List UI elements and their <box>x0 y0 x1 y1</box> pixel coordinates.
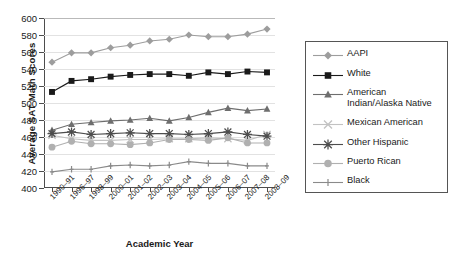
data-point-triangle <box>264 105 271 111</box>
data-point-asterisk <box>67 127 76 136</box>
legend-marker-square-icon <box>312 68 344 81</box>
data-point-asterisk <box>145 129 154 138</box>
y-tick-label: 420 <box>21 166 37 177</box>
data-point-asterisk <box>126 128 135 137</box>
data-point-circle <box>68 138 75 145</box>
legend-item: AAPI <box>312 48 368 61</box>
y-tick-label: 580 <box>21 30 37 41</box>
data-point-square <box>264 69 270 75</box>
legend-marker-triangle-icon <box>312 87 344 100</box>
data-point-square <box>88 76 94 82</box>
data-point-plus <box>167 162 171 168</box>
y-tick-label: 520 <box>21 81 37 92</box>
data-point-plus <box>70 166 74 172</box>
legend-label: White <box>347 68 371 79</box>
data-point-asterisk <box>323 140 333 150</box>
y-tick-label: 540 <box>21 64 37 75</box>
data-point-plus <box>187 158 191 164</box>
legend-marker-plus-icon <box>312 175 344 188</box>
data-point-square <box>147 71 153 77</box>
chart-legend: AAPIWhiteAmerican Indian/Alaska NativeMe… <box>305 41 448 193</box>
data-point-plus <box>226 160 230 166</box>
legend-label: AAPI <box>347 48 368 59</box>
data-point-circle <box>49 144 56 151</box>
y-tick-label: 440 <box>21 149 37 160</box>
series-lines <box>44 18 275 188</box>
data-point-diamond <box>224 33 231 40</box>
series-line <box>52 72 267 92</box>
data-point-circle <box>224 134 231 141</box>
data-point-circle <box>146 140 153 147</box>
data-point-circle <box>205 137 212 144</box>
y-tick-label: 460 <box>21 132 37 143</box>
data-point-asterisk <box>243 130 252 139</box>
data-point-plus <box>148 163 152 169</box>
data-point-square <box>166 71 172 77</box>
data-point-asterisk <box>106 129 115 138</box>
chart-figure: Average SAT Math Scores 6005805605405205… <box>0 0 453 267</box>
data-point-plus <box>265 163 269 169</box>
legend-label: Black <box>347 175 370 186</box>
y-tick-label: 560 <box>21 47 37 58</box>
y-tick-label: 500 <box>21 98 37 109</box>
data-point-asterisk <box>87 130 96 139</box>
data-point-asterisk <box>204 129 213 138</box>
data-point-diamond <box>146 37 153 44</box>
data-point-triangle <box>224 105 231 111</box>
data-point-square <box>127 72 133 78</box>
data-point-diamond <box>166 36 173 43</box>
data-point-circle <box>127 141 134 148</box>
data-point-circle <box>107 140 114 147</box>
data-point-asterisk <box>263 132 272 141</box>
data-point-plus <box>245 163 249 169</box>
data-point-plus <box>109 163 113 169</box>
data-point-circle <box>88 140 95 147</box>
legend-label: Mexican American <box>347 117 423 128</box>
data-point-diamond <box>244 31 251 38</box>
data-point-square <box>49 89 55 95</box>
data-point-diamond <box>263 25 270 32</box>
data-point-square <box>225 71 231 77</box>
legend-item: Black <box>312 175 370 188</box>
data-point-diamond <box>127 42 134 49</box>
y-tick-label: 400 <box>21 183 37 194</box>
plot-area: 600580560540520500480460440420400 1990–9… <box>44 18 275 188</box>
data-point-plus <box>326 179 330 186</box>
data-point-plus <box>206 160 210 166</box>
series-line <box>52 29 267 62</box>
data-point-square <box>108 74 114 80</box>
data-point-circle <box>244 140 251 147</box>
legend-item: American Indian/Alaska Native <box>312 87 432 109</box>
data-point-square <box>205 69 211 75</box>
y-tick-label: 600 <box>21 13 37 24</box>
data-point-diamond <box>107 44 114 51</box>
data-point-plus <box>50 169 54 175</box>
data-point-circle <box>185 136 192 143</box>
data-point-diamond <box>68 49 75 56</box>
data-point-diamond <box>87 49 94 56</box>
data-point-asterisk <box>48 129 57 138</box>
series-line <box>52 132 267 136</box>
legend-item: White <box>312 68 371 81</box>
series-line <box>52 162 267 172</box>
legend-marker-circle-icon <box>312 156 344 169</box>
data-point-diamond <box>48 59 55 66</box>
data-point-diamond <box>185 31 192 38</box>
legend-label: Other Hispanic <box>347 137 409 148</box>
legend-item: Puerto Rican <box>312 156 401 169</box>
data-point-square <box>69 78 75 84</box>
legend-marker-diamond-icon <box>312 48 344 61</box>
data-point-triangle <box>146 115 153 121</box>
data-point-plus <box>128 162 132 168</box>
data-point-diamond <box>205 33 212 40</box>
legend-item: Mexican American <box>312 117 423 130</box>
legend-label: American Indian/Alaska Native <box>347 87 432 109</box>
data-point-circle <box>324 160 332 168</box>
legend-item: Other Hispanic <box>312 137 409 150</box>
data-point-circle <box>166 136 173 143</box>
data-point-square <box>325 72 332 79</box>
x-axis-title: Academic Year <box>44 238 275 249</box>
data-point-diamond <box>324 52 332 60</box>
series-line <box>52 108 267 130</box>
y-tick <box>39 188 44 189</box>
